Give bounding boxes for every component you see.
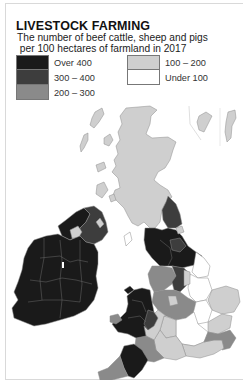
legend-item-over-400: Over 400 — [16, 55, 95, 70]
subtitle-line-1: The number of beef cattle, sheep and pig… — [17, 32, 208, 43]
legend-swatch — [16, 70, 49, 85]
legend-swatch — [16, 55, 49, 70]
legend-label: Over 400 — [54, 58, 92, 68]
legend-item-200-300: 200 – 300 — [16, 85, 95, 100]
subtitle-line-2: per 100 hectares of farmland in 2017 — [17, 43, 208, 54]
legend-swatch — [127, 70, 160, 85]
region-mull — [96, 162, 106, 172]
region-western-isles — [90, 108, 104, 128]
region-islay — [96, 182, 108, 198]
region-hebrides-south — [80, 133, 88, 152]
legend-label: 300 – 400 — [54, 73, 95, 83]
region-lincolnshire — [188, 274, 212, 302]
region-yorkshire-south — [184, 270, 190, 286]
legend-right: 100 – 200 Under 100 — [127, 55, 208, 85]
legend-left: Over 400 300 – 400 200 – 300 — [16, 55, 95, 100]
legend-label: 100 – 200 — [165, 58, 206, 68]
choropleth-map — [0, 100, 245, 380]
map-subtitle: The number of beef cattle, sheep and pig… — [17, 32, 208, 54]
region-shetland-inset — [225, 110, 236, 142]
region-east-anglia — [208, 286, 240, 314]
lough-ree — [62, 262, 64, 268]
legend-item-300-400: 300 – 400 — [16, 70, 95, 85]
legend-item-under-100: Under 100 — [127, 70, 208, 85]
region-orkney-inset — [197, 112, 212, 132]
region-skye — [104, 134, 113, 146]
legend-swatch — [16, 85, 49, 100]
legend-swatch — [127, 55, 160, 70]
region-lancashire — [148, 266, 176, 292]
map-title: LIVESTOCK FARMING — [16, 19, 150, 33]
legend-label: Under 100 — [165, 73, 208, 83]
region-isle-of-man — [124, 232, 132, 246]
legend-label: 200 – 300 — [54, 88, 95, 98]
legend-item-100-200: 100 – 200 — [127, 55, 208, 70]
region-staffordshire — [168, 296, 178, 306]
